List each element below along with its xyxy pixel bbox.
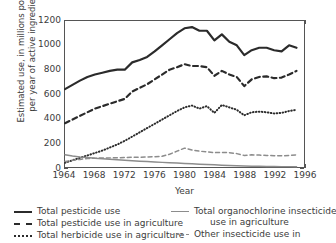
- x-axis-title-label: Year: [135, 186, 194, 196]
- x-tick-label: 1992: [263, 171, 286, 180]
- legend-item-total-pesticide-use: Total pesticide use: [13, 206, 173, 218]
- x-tick-mark: [305, 164, 306, 168]
- legend-label: Total pesticide use in agriculture: [37, 218, 183, 229]
- legend-item-other-insecticide-use-in: Other insecticide use in: [170, 229, 329, 241]
- series-line-4: [65, 148, 297, 161]
- y-tick-label: 1000: [26, 40, 61, 49]
- solid-gray-line-icon: [170, 206, 190, 217]
- series-canvas: [65, 21, 304, 167]
- legend-label-line-2: use in agriculture: [194, 217, 336, 228]
- y-tick-label: 800: [26, 65, 61, 74]
- legend-label: Total herbicide use in agriculture: [37, 230, 184, 241]
- dotted-black-line-icon: [13, 230, 33, 241]
- plot-area: [64, 20, 305, 168]
- y-tick-mark-right: [300, 168, 304, 169]
- x-tick-label: 1984: [203, 171, 226, 180]
- series-line-2: [65, 105, 297, 163]
- legend-item-total-herbicide-use-in-agriculture: Total herbicide use in agriculture: [13, 230, 173, 242]
- x-tick-label: 1968: [83, 171, 106, 180]
- series-line-3: [65, 155, 297, 167]
- legend-label: Other insecticide use in: [194, 229, 300, 240]
- legend-column-left: Total pesticide use Total pesticide use …: [13, 206, 173, 242]
- legend-item-total-pesticide-use-in-agriculture: Total pesticide use in agriculture: [13, 218, 173, 230]
- solid-black-line-icon: [13, 206, 33, 217]
- x-tick-mark-top: [305, 20, 306, 24]
- y-tick-mark: [64, 168, 68, 169]
- x-tick-label: 1988: [233, 171, 256, 180]
- legend-column-right: Total organochlorine insecticideuse in a…: [170, 206, 329, 241]
- x-tick-label: 1976: [143, 171, 166, 180]
- x-tick-label: 1964: [53, 171, 76, 180]
- legend-item-total-organochlorine-insecticide-use-in-agriculture: Total organochlorine insecticideuse in a…: [170, 206, 329, 229]
- series-line-0: [65, 27, 297, 89]
- legend-label-line-1: Total organochlorine insecticide: [194, 206, 336, 216]
- x-tick-label: 1972: [113, 171, 136, 180]
- y-tick-label: 600: [26, 90, 61, 99]
- legend-label: Total organochlorine insecticideuse in a…: [194, 206, 336, 228]
- x-axis-title: Year: [0, 186, 329, 196]
- dashed-gray-line-icon: [170, 229, 190, 240]
- x-tick-label: 1980: [173, 171, 196, 180]
- y-tick-label: 200: [26, 139, 61, 148]
- chart-legend: Total pesticide use Total pesticide use …: [0, 206, 329, 243]
- y-tick-label: 400: [26, 114, 61, 123]
- y-tick-label: 1200: [26, 16, 61, 25]
- dashed-black-line-icon: [13, 218, 33, 229]
- x-tick-label: 1996: [294, 171, 317, 180]
- legend-label: Total pesticide use: [37, 206, 120, 217]
